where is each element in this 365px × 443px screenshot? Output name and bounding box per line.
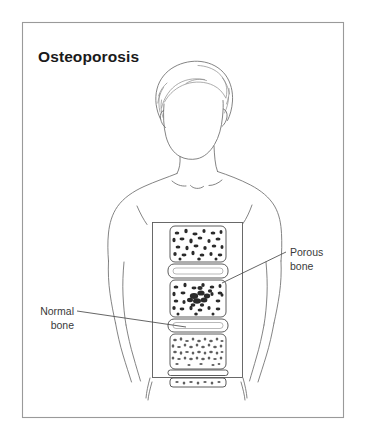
intervertebral-disc-1 [168,264,228,278]
intervertebral-disc-3 [168,370,228,376]
normal-bone-label-line1: Normal [40,305,74,317]
vertebra-partial-lower [170,378,226,387]
spine-cutaway-panel [153,223,243,378]
vertebra-normal [170,334,226,369]
page-title: Osteoporosis [38,48,139,65]
osteoporosis-figure: Porous bone Normal bone Osteoporosis [0,0,365,443]
porous-bone-label-line1: Porous [290,246,323,258]
porous-bone-label-line2: bone [290,260,314,272]
vertebra-porous-middle [170,280,226,317]
illustration-canvas: Porous bone Normal bone Osteoporosis [0,0,365,443]
normal-bone-label-line2: bone [51,319,75,331]
vertebra-porous-upper [170,226,226,262]
